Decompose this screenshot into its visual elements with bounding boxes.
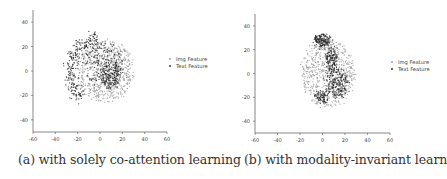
legend-label: Text Feature — [175, 63, 208, 69]
x-tick-label: 20 — [119, 136, 125, 142]
plot-canvas-b: 40200-20-40-60-40-200204060Img FeatureTe… — [224, 0, 447, 150]
x-tick-label: 0 — [321, 137, 324, 143]
y-tick-label: 20 — [244, 47, 250, 53]
legend-marker-icon — [169, 58, 171, 60]
y-tick-label: -40 — [242, 118, 250, 124]
y-tick-label: 0 — [247, 71, 250, 77]
plot-canvas-a: 40200-20-40-60-40-200204060Img FeatureTe… — [0, 0, 224, 150]
y-tick-label: 40 — [244, 23, 250, 29]
y-tick-label: -40 — [20, 117, 28, 123]
legend-label: Img Feature — [398, 59, 429, 66]
x-tick-label: -60 — [251, 137, 259, 143]
legend-marker-icon — [169, 65, 171, 67]
x-tick-label: -40 — [273, 137, 281, 143]
x-tick-label: 60 — [387, 137, 393, 143]
y-tick-label: 20 — [22, 44, 28, 50]
y-tick-label: -20 — [20, 92, 28, 98]
x-tick-label: -60 — [29, 136, 37, 142]
y-tick-label: 0 — [25, 68, 28, 74]
x-tick-label: -40 — [51, 136, 59, 142]
x-tick-label: 60 — [164, 136, 170, 142]
x-tick-label: 20 — [342, 137, 348, 143]
legend-marker-icon — [391, 68, 393, 70]
legend-label: Img Feature — [176, 56, 207, 63]
x-tick-label: 40 — [364, 137, 370, 143]
x-tick-label: -20 — [296, 137, 304, 143]
scatter-plot-b: 40200-20-40-60-40-200204060Img FeatureTe… — [224, 0, 447, 150]
x-tick-label: 40 — [141, 136, 147, 142]
legend-label: Text Feature — [397, 66, 430, 72]
x-tick-label: -20 — [74, 136, 82, 142]
caption-b: (b) with modality-invariant learning — [244, 152, 447, 167]
y-tick-label: -20 — [242, 94, 250, 100]
x-tick-label: 0 — [98, 136, 101, 142]
caption-a: (a) with solely co-attention learning — [18, 152, 241, 167]
y-tick-label: 40 — [22, 19, 28, 25]
scatter-plot-a: 40200-20-40-60-40-200204060Img FeatureTe… — [0, 0, 224, 150]
series-img-feature — [300, 36, 357, 108]
legend-marker-icon — [391, 61, 393, 63]
